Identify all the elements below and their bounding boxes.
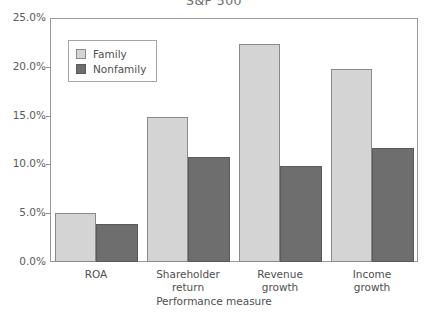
x-tick-label: ROA — [50, 268, 142, 281]
bar-chart: S&P 500 0.0%5.0%10.0%15.0%20.0%25.0% ROA… — [0, 0, 428, 313]
y-tick-label: 20.0% — [2, 60, 46, 72]
y-tick-label: 10.0% — [2, 157, 46, 169]
legend-label-family: Family — [93, 48, 127, 60]
chart-title: S&P 500 — [0, 0, 428, 8]
legend-swatch-nonfamily-icon — [76, 64, 86, 74]
bar-nonfamily — [372, 148, 414, 262]
x-tick-label: Income growth — [326, 268, 418, 293]
y-tick-label: 0.0% — [2, 255, 46, 267]
y-tick-label: 15.0% — [2, 109, 46, 121]
legend-swatch-family-icon — [76, 49, 86, 59]
y-tick-label: 25.0% — [2, 11, 46, 23]
bar-nonfamily — [96, 224, 138, 262]
bar-family — [55, 213, 97, 262]
bar-family — [147, 117, 189, 262]
bar-nonfamily — [188, 157, 230, 262]
x-tick-label: Revenue growth — [234, 268, 326, 293]
legend-label-nonfamily: Nonfamily — [93, 63, 146, 75]
legend-item-family: Family — [76, 46, 146, 61]
bar-family — [331, 69, 373, 262]
bar-family — [239, 44, 281, 262]
x-axis-title: Performance measure — [0, 295, 428, 307]
bar-nonfamily — [280, 166, 322, 262]
legend-item-nonfamily: Nonfamily — [76, 61, 146, 76]
y-tick-label: 5.0% — [2, 206, 46, 218]
legend: Family Nonfamily — [68, 40, 157, 82]
x-tick-label: Shareholder return — [142, 268, 234, 293]
